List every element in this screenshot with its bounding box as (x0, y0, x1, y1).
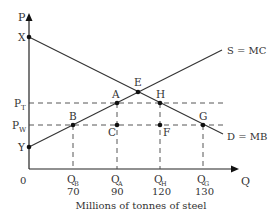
svg-text:70: 70 (67, 186, 80, 197)
svg-text:T: T (21, 104, 26, 112)
point-f (158, 123, 163, 128)
label-a: A (111, 88, 120, 100)
tick-qh: Q H 120 (152, 173, 171, 197)
svg-text:W: W (19, 126, 27, 134)
svg-text:120: 120 (152, 186, 171, 197)
demand-label: D = MB (227, 131, 267, 142)
point-g (201, 123, 206, 128)
label-b: B (69, 110, 77, 122)
supply-curve (29, 50, 222, 147)
tick-qb: Q B 70 (67, 173, 80, 197)
y-axis-arrow-icon (26, 13, 33, 21)
demand-curve (29, 37, 223, 134)
tick-qg: Q G 130 (195, 173, 214, 197)
label-h: H (156, 88, 165, 100)
label-x: X (18, 31, 26, 43)
origin-label: 0 (20, 175, 26, 186)
y-axis-label: P (18, 11, 26, 24)
axes (26, 13, 240, 173)
x-axis-arrow-icon (231, 166, 239, 173)
guide-lines (29, 103, 223, 169)
svg-text:90: 90 (111, 186, 124, 197)
chart-canvas: P Q 0 X Y E A H B C F G S = MC D = MB P … (0, 0, 274, 216)
point-e (136, 90, 141, 95)
point-b (71, 123, 76, 128)
point-a (115, 101, 120, 106)
x-axis-caption: Millions of tonnes of steel (76, 200, 207, 211)
tick-qa: Q A 90 (111, 173, 124, 197)
label-e: E (134, 76, 142, 88)
svg-text:130: 130 (195, 186, 214, 197)
label-y: Y (17, 141, 26, 153)
label-f: F (163, 126, 170, 138)
supply-label: S = MC (227, 45, 267, 56)
price-label-pt: P T (14, 97, 26, 112)
label-c: C (108, 126, 116, 138)
point-y (27, 145, 32, 150)
price-label-pw: P W (12, 119, 27, 134)
label-g: G (199, 110, 207, 122)
point-x (27, 35, 32, 40)
point-h (158, 101, 163, 106)
x-axis-label: Q (241, 175, 250, 188)
